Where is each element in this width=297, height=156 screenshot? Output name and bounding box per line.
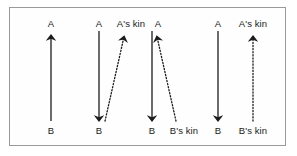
label-bottom-b-2: B [96,126,102,136]
figure-container: A A A's kin A A A's kin B B B B's kin B … [0,0,297,156]
arrow-panel3-b-kin-to-a [158,39,177,121]
label-top-a-kin-2: A's kin [239,19,267,29]
label-bottom-b-kin-2: B's kin [239,126,267,136]
label-bottom-b-1: B [48,126,54,136]
label-top-a-2: A [96,19,102,29]
label-top-a-3: A [155,19,161,29]
label-top-a-4: A [215,19,221,29]
label-bottom-b-kin-1: B's kin [170,126,198,136]
label-top-a-kin-1: A's kin [117,19,145,29]
label-bottom-b-4: B [215,126,221,136]
label-bottom-b-3: B [149,126,155,136]
label-top-a-1: A [48,19,54,29]
arrow-panel2-b-to-a-kin [105,39,124,121]
